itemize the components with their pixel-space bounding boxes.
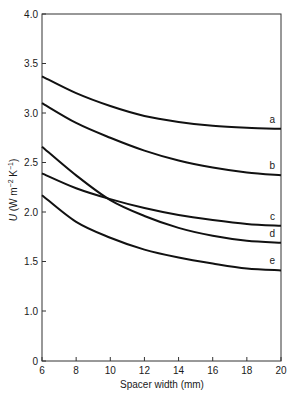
line-chart: 01.01.52.02.53.03.54.0 68101214161820 ab… — [0, 0, 294, 396]
y-tick-label: 1.5 — [24, 256, 38, 267]
curve-a — [42, 76, 281, 128]
curve-d — [42, 147, 281, 243]
curve-label-a: a — [269, 114, 275, 125]
y-tick-label: 3.5 — [24, 58, 38, 69]
y-tick-label: 4.0 — [24, 9, 38, 20]
curve-labels: abcde — [269, 114, 275, 267]
x-tick-label: 8 — [73, 365, 79, 376]
curve-label-b: b — [269, 160, 275, 171]
x-axis-ticks: 68101214161820 — [39, 357, 287, 376]
y-tick-label: 1.0 — [24, 306, 38, 317]
x-tick-label: 16 — [207, 365, 219, 376]
x-tick-label: 12 — [139, 365, 151, 376]
curve-label-d: d — [269, 228, 275, 239]
y-tick-label: 0 — [32, 356, 38, 367]
x-tick-label: 18 — [241, 365, 253, 376]
y-tick-label: 2.5 — [24, 157, 38, 168]
x-axis-title: Spacer width (mm) — [120, 379, 204, 390]
x-tick-label: 6 — [39, 365, 45, 376]
y-axis-ticks: 01.01.52.02.53.03.54.0 — [24, 9, 46, 367]
x-tick-label: 20 — [275, 365, 287, 376]
x-tick-label: 10 — [105, 365, 117, 376]
curves — [42, 76, 281, 270]
curve-c — [42, 173, 281, 225]
curve-b — [42, 103, 281, 175]
y-tick-label: 2.0 — [24, 207, 38, 218]
curve-label-c: c — [270, 211, 275, 222]
curve-label-e: e — [269, 255, 275, 266]
curve-e — [42, 195, 281, 270]
x-tick-label: 14 — [173, 365, 185, 376]
y-tick-label: 3.0 — [24, 108, 38, 119]
plot-frame — [42, 14, 281, 361]
y-axis-title: U (W m−2 K−1) — [7, 159, 19, 222]
